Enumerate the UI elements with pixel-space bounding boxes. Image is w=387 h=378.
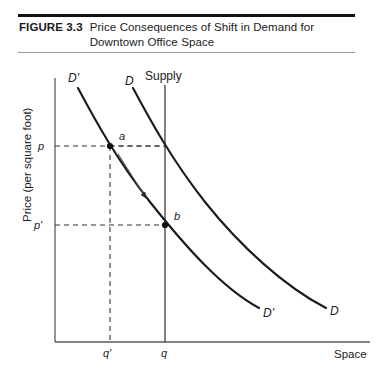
figure-root: FIGURE 3.3Price Consequences of Shift in…	[0, 0, 387, 378]
demand-curve-D	[133, 88, 326, 308]
point-a-label: a	[119, 130, 125, 142]
y-tick-label-p-prime: p'	[33, 219, 43, 231]
economics-supply-demand-chart: a b D' D Supply D' D p p' q' q Space Pri…	[0, 0, 387, 378]
x-tick-label-q-prime: q'	[103, 347, 112, 359]
point-a-marker	[107, 143, 113, 149]
demand-curve-D-top-label: D	[125, 74, 134, 88]
point-b-marker	[162, 222, 168, 228]
x-tick-label-q: q	[161, 347, 168, 359]
point-b-label: b	[174, 210, 180, 222]
y-tick-label-p: p	[37, 140, 44, 152]
shift-arrow-a-to-b	[118, 154, 146, 198]
supply-curve-label: Supply	[145, 69, 182, 83]
demand-curve-D-prime	[78, 88, 259, 308]
x-axis-title: Space	[334, 348, 367, 360]
demand-curve-D-prime-top-label: D'	[68, 71, 80, 85]
demand-curve-D-prime-bottom-label: D'	[263, 306, 275, 320]
demand-curve-D-bottom-label: D	[330, 304, 339, 318]
y-axis-title: Price (per square foot)	[21, 107, 33, 222]
